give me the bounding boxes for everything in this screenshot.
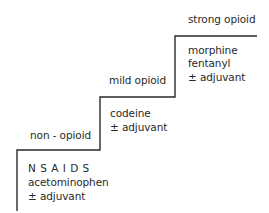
step-1-label: non - opioid [30, 129, 91, 143]
step-1-drug-1: N S A I D S [28, 162, 90, 176]
step-2-label: mild opioid [109, 74, 166, 88]
step-1-adjuvant: ± adjuvant [28, 190, 85, 204]
step-3-adjuvant: ± adjuvant [188, 71, 245, 85]
step-3-drug-2: fentanyl [188, 57, 230, 71]
step-3-label: strong opioid [188, 13, 255, 27]
step-3-drug-1: morphine [188, 44, 238, 58]
step-1-drug-2: acetominophen [28, 176, 109, 190]
step-2-drug-1: codeine [110, 107, 151, 121]
step-2-adjuvant: ± adjuvant [110, 121, 167, 135]
